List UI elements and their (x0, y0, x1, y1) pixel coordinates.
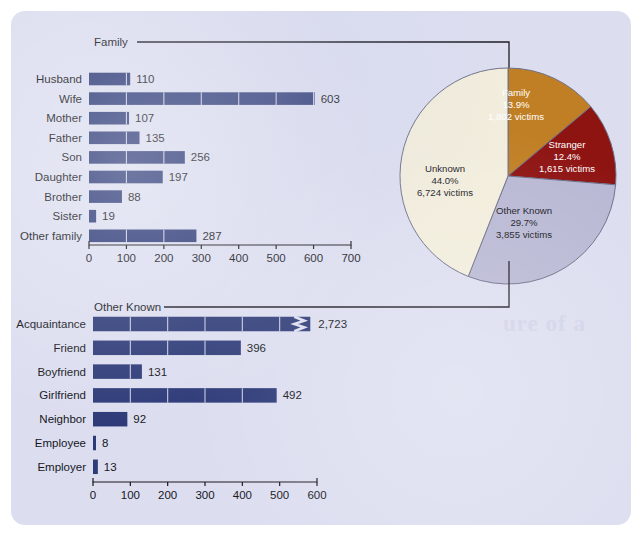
bar-row (93, 436, 96, 451)
bar-row (93, 460, 98, 475)
bar (89, 210, 96, 223)
bar (89, 92, 315, 105)
x-axis: 0100200300400500600 (90, 478, 327, 501)
bar-value-label: 197 (169, 171, 188, 183)
bar-category-label: Brother (44, 191, 82, 203)
bar-category-label: Husband (36, 73, 82, 85)
bar-row (89, 190, 122, 203)
bar-row (93, 341, 241, 356)
other-known-connector: Other Known (94, 261, 509, 313)
bar-value-label: 603 (321, 93, 340, 105)
bar (93, 388, 277, 403)
figure-root: Family Husband110Wife603Mother107Father1… (11, 11, 631, 525)
bar-value-label: 8 (102, 437, 108, 449)
bar (93, 460, 98, 475)
bar-category-label: Employee (35, 437, 86, 449)
bar (93, 436, 96, 451)
bar-category-label: Wife (59, 93, 82, 105)
bar-value-label: 492 (283, 389, 302, 401)
pie-label-name: Stranger (549, 139, 587, 150)
bar-value-label: 287 (202, 230, 221, 242)
other-known-bar-chart: Acquaintance2,723Friend396Boyfriend131Gi… (16, 317, 347, 501)
bar-category-label: Son (62, 151, 82, 163)
bar-row (93, 412, 127, 427)
bar-category-label: Neighbor (39, 413, 86, 425)
family-connector: Family (94, 36, 509, 86)
axis-tick-label: 500 (270, 489, 289, 501)
pie-label-victims: 1,615 victims (539, 163, 595, 174)
bar-category-label: Other family (20, 230, 82, 242)
bar-row (89, 151, 185, 164)
bar-value-label: 2,723 (318, 318, 347, 330)
bar-category-label: Employer (37, 461, 86, 473)
relationship-pie-chart: Family13.9%1,802 victimsStranger12.4%1,6… (400, 68, 616, 284)
axis-tick-label: 400 (229, 252, 248, 264)
bar-category-label: Acquaintance (16, 318, 86, 330)
pie-label-victims: 6,724 victims (417, 187, 473, 198)
bar-row (89, 210, 96, 223)
bar-value-label: 135 (146, 132, 165, 144)
bar-row (93, 388, 277, 403)
pie-label-name: Unknown (425, 163, 465, 174)
bar (89, 151, 185, 164)
bar (93, 317, 310, 332)
family-bar-chart: Husband110Wife603Mother107Father135Son25… (20, 73, 361, 264)
bar-category-label: Sister (53, 210, 83, 222)
axis-tick-label: 600 (304, 252, 323, 264)
pie-label-name: Other Known (496, 205, 552, 216)
bar (93, 412, 127, 427)
bar-row (89, 171, 163, 184)
bar-category-label: Father (49, 132, 82, 144)
pie-label-percent: 13.9% (502, 99, 530, 110)
pie-label-percent: 29.7% (510, 217, 538, 228)
bar-value-label: 396 (247, 342, 266, 354)
bar-row (89, 112, 129, 125)
axis-tick-label: 200 (154, 252, 173, 264)
bar-row (89, 230, 196, 243)
bar-row (89, 92, 315, 105)
bar-category-label: Boyfriend (37, 366, 86, 378)
axis-tick-label: 100 (117, 252, 136, 264)
bar (93, 364, 142, 379)
axis-tick-label: 400 (233, 489, 252, 501)
bar-value-label: 107 (135, 112, 154, 124)
axis-tick-label: 200 (158, 489, 177, 501)
bar-value-label: 19 (102, 210, 115, 222)
bar (89, 171, 163, 184)
bar-row (89, 132, 140, 145)
bar-category-label: Friend (53, 342, 86, 354)
pie-label-name: Family (502, 87, 530, 98)
bar (89, 112, 129, 125)
axis-tick-label: 0 (86, 252, 92, 264)
bar-value-label: 88 (128, 191, 141, 203)
bar-category-label: Girlfriend (39, 389, 86, 401)
bar-row (93, 317, 310, 332)
bar (93, 341, 241, 356)
bar-category-label: Mother (46, 112, 82, 124)
bar-row (89, 73, 130, 86)
bar-row (93, 364, 142, 379)
bar (89, 73, 130, 86)
pie-label-percent: 44.0% (431, 175, 459, 186)
other-known-connector-label: Other Known (94, 301, 161, 313)
pie-label-victims: 1,802 victims (488, 111, 544, 122)
x-axis: 0100200300400500600700 (86, 241, 361, 264)
bar (89, 190, 122, 203)
bar-value-label: 110 (136, 73, 154, 85)
axis-tick-label: 600 (307, 489, 326, 501)
axis-tick-label: 300 (192, 252, 211, 264)
bar-value-label: 92 (133, 413, 146, 425)
axis-tick-label: 100 (121, 489, 140, 501)
bar-value-label: 131 (148, 366, 167, 378)
bar-category-label: Daughter (35, 171, 82, 183)
axis-tick-label: 500 (267, 252, 286, 264)
bar-value-label: 256 (191, 151, 210, 163)
axis-tick-label: 700 (341, 252, 360, 264)
pie-label-percent: 12.4% (553, 151, 581, 162)
bar (89, 132, 140, 145)
pie-label-victims: 3,855 victims (496, 229, 552, 240)
axis-tick-label: 300 (195, 489, 214, 501)
axis-tick-label: 0 (90, 489, 96, 501)
family-connector-label: Family (94, 36, 128, 48)
bar (89, 230, 196, 243)
